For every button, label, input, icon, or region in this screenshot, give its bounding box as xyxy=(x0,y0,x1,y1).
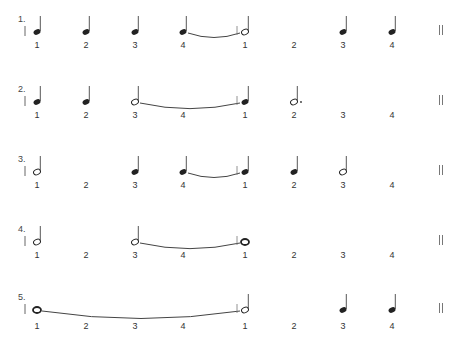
tie-icon xyxy=(140,103,240,109)
half-note-icon xyxy=(131,226,140,246)
quarter-note-icon xyxy=(131,16,140,36)
whole-note-icon xyxy=(33,307,41,313)
quarter-note-icon xyxy=(82,86,91,106)
quarter-note-icon xyxy=(388,294,397,314)
exercise-row: 4.12341234 xyxy=(0,210,452,270)
notation-icon xyxy=(0,140,452,200)
tie-icon xyxy=(42,311,240,319)
half-note-icon xyxy=(241,294,250,314)
quarter-note-icon xyxy=(179,156,188,176)
half-note-icon xyxy=(33,226,42,246)
notation-icon xyxy=(0,0,452,60)
tie-icon xyxy=(188,33,240,38)
quarter-note-icon xyxy=(82,16,91,36)
dotted-half-note-icon xyxy=(290,86,302,106)
half-note-icon xyxy=(33,156,42,176)
half-note-icon xyxy=(131,86,140,106)
notation-icon xyxy=(0,70,452,130)
half-note-icon xyxy=(241,16,250,36)
tie-icon xyxy=(140,243,240,249)
quarter-note-icon xyxy=(339,16,348,36)
exercise-row: 2.12341234 xyxy=(0,70,452,130)
exercise-row: 3.12341234 xyxy=(0,140,452,200)
whole-note-icon xyxy=(241,239,249,245)
notation-icon xyxy=(0,210,452,270)
quarter-note-icon xyxy=(388,16,397,36)
half-note-icon xyxy=(339,156,348,176)
quarter-note-icon xyxy=(290,156,299,176)
notation-icon xyxy=(0,278,452,338)
exercise-row: 5.12341234 xyxy=(0,278,452,338)
quarter-note-icon xyxy=(241,86,250,106)
quarter-note-icon xyxy=(179,16,188,36)
quarter-note-icon xyxy=(241,156,250,176)
quarter-note-icon xyxy=(33,86,42,106)
quarter-note-icon xyxy=(339,294,348,314)
exercise-row: 1.12341234 xyxy=(0,0,452,60)
quarter-note-icon xyxy=(33,16,42,36)
tie-icon xyxy=(188,173,240,178)
quarter-note-icon xyxy=(131,156,140,176)
